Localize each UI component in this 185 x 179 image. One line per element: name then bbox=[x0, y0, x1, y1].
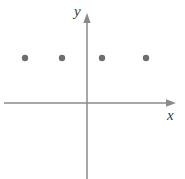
data-point-group bbox=[22, 55, 149, 61]
y-axis-arrowhead bbox=[83, 13, 90, 23]
plot-canvas bbox=[0, 0, 185, 179]
y-axis-group bbox=[83, 13, 90, 179]
y-axis-label: y bbox=[74, 4, 81, 19]
data-point bbox=[99, 55, 105, 61]
data-point bbox=[59, 55, 65, 61]
coordinate-plane-figure: y x bbox=[0, 0, 185, 179]
data-point bbox=[143, 55, 149, 61]
x-axis-label: x bbox=[167, 108, 174, 123]
x-axis-group bbox=[4, 99, 176, 106]
data-point bbox=[22, 55, 28, 61]
x-axis-arrowhead bbox=[166, 99, 176, 106]
